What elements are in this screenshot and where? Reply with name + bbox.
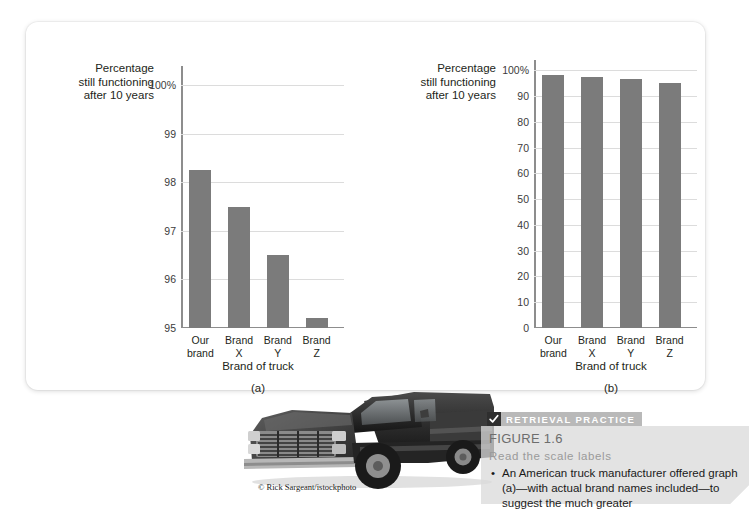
y-axis-tick-label: 50 xyxy=(517,193,529,205)
y-axis-tick-label: 0 xyxy=(523,322,529,334)
x-axis-tick-label: Brand Y xyxy=(264,334,292,359)
y-axis-tick-label: 40 xyxy=(517,219,529,231)
bar xyxy=(306,318,328,328)
check-icon xyxy=(487,412,501,426)
x-axis-tick-label: Our brand xyxy=(540,334,567,359)
gridline xyxy=(534,70,697,71)
chart-a: Percentage still functioning after 10 ye… xyxy=(26,22,366,362)
x-axis-tick-label: Brand Y xyxy=(617,334,645,359)
bar xyxy=(659,83,681,328)
retrieval-practice-banner: RETRIEVAL PRACTICE xyxy=(487,412,642,426)
chart-b-panel-letter: (b) xyxy=(604,382,618,394)
bullet-glyph: • xyxy=(491,466,495,481)
chart-a-plot-area: 9596979899100% xyxy=(181,66,336,328)
y-axis-tick-label: 30 xyxy=(517,245,529,257)
x-axis-tick-label: Brand Z xyxy=(303,334,331,359)
bar xyxy=(228,207,250,328)
y-axis-tick-label: 90 xyxy=(517,90,529,102)
chart-a-y-axis-title: Percentage still functioning after 10 ye… xyxy=(44,62,154,103)
chart-b: Percentage still functioning after 10 ye… xyxy=(366,22,705,362)
y-axis-tick-label: 99 xyxy=(164,128,176,140)
y-axis-tick-label: 95 xyxy=(164,322,176,334)
chart-b-x-axis-label: Brand of truck xyxy=(575,360,647,372)
y-axis-tick-label: 97 xyxy=(164,225,176,237)
chart-b-y-axis-line xyxy=(534,60,536,328)
chart-a-x-axis-label: Brand of truck xyxy=(222,360,294,372)
chart-b-plot-area: 0102030405060708090100% xyxy=(534,60,689,328)
x-axis-tick-label: Brand X xyxy=(225,334,253,359)
figure-panel: Percentage still functioning after 10 ye… xyxy=(26,22,705,390)
y-axis-tick-label: 70 xyxy=(517,142,529,154)
figure-subtitle: Read the scale labels xyxy=(489,450,612,462)
figure-body-text: • An American truck manufacturer offered… xyxy=(489,466,741,509)
y-axis-tick-label: 80 xyxy=(517,116,529,128)
gridline xyxy=(181,85,344,86)
photo-credit: © Rick Sargeant/istockphoto xyxy=(258,482,356,492)
bar xyxy=(267,255,289,328)
y-axis-tick-label: 100% xyxy=(149,79,176,91)
x-axis-tick-label: Brand X xyxy=(578,334,606,359)
y-axis-tick-label: 98 xyxy=(164,176,176,188)
pickup-truck-photo xyxy=(232,383,507,493)
y-axis-tick-label: 10 xyxy=(517,296,529,308)
bar xyxy=(620,79,642,328)
figure-body-paragraph: An American truck manufacturer offered g… xyxy=(489,466,741,509)
retrieval-practice-label: RETRIEVAL PRACTICE xyxy=(501,414,635,425)
figure-number: FIGURE 1.6 xyxy=(489,431,563,446)
y-axis-tick-label: 60 xyxy=(517,167,529,179)
gridline xyxy=(181,134,344,135)
bar xyxy=(581,77,603,328)
y-axis-tick-label: 20 xyxy=(517,270,529,282)
y-axis-tick-label: 96 xyxy=(164,273,176,285)
chart-a-y-axis-line xyxy=(181,66,183,328)
y-axis-tick-label: 100% xyxy=(502,64,529,76)
bar xyxy=(542,75,564,328)
bar xyxy=(189,170,211,328)
x-axis-tick-label: Our brand xyxy=(187,334,214,359)
retrieval-practice-card: RETRIEVAL PRACTICE FIGURE 1.6 Read the s… xyxy=(487,412,747,509)
chart-b-y-axis-title: Percentage still functioning after 10 ye… xyxy=(386,62,496,103)
x-axis-tick-label: Brand Z xyxy=(656,334,684,359)
